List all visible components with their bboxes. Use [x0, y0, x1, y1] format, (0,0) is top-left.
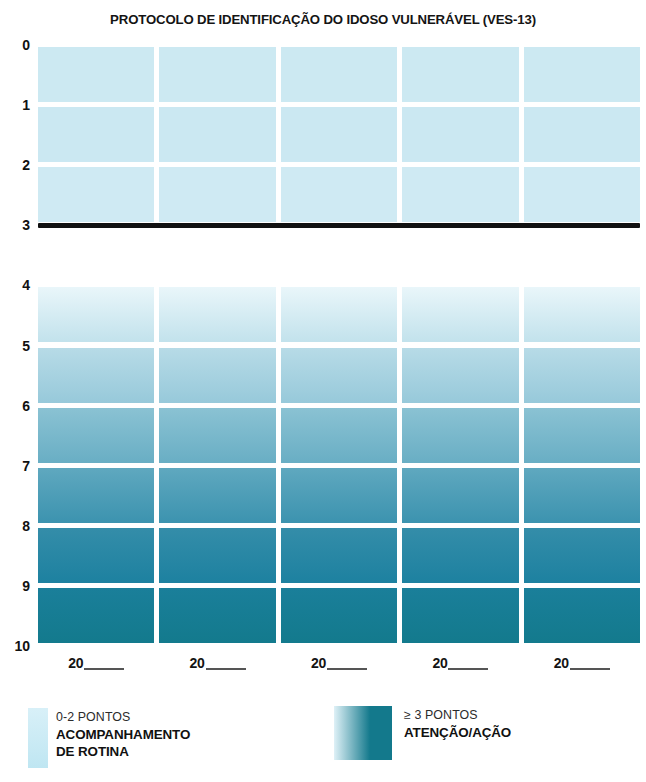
chart-cell-col3-score5[interactable]: [281, 348, 397, 403]
x-axis-tick-3[interactable]: 20: [281, 655, 397, 671]
legend-swatch-high: [334, 706, 392, 760]
chart-cell-col1-score1[interactable]: [38, 107, 154, 162]
legend-action-label-1: ACOMPANHAMENTO: [56, 727, 190, 742]
x-tick-year-prefix: 20: [311, 655, 326, 671]
x-tick-year-blank[interactable]: [448, 668, 488, 670]
chart-cell-col3-score6[interactable]: [281, 408, 397, 463]
x-axis-tick-5[interactable]: 20: [524, 655, 640, 671]
chart-column-3[interactable]: [281, 45, 397, 646]
x-axis-tick-4[interactable]: 20: [402, 655, 518, 671]
chart-cell-col5-score1[interactable]: [524, 107, 640, 162]
chart-cell-col5-score0[interactable]: [524, 47, 640, 102]
legend-action-label2-1: DE ROTINA: [56, 744, 190, 759]
chart-cell-col2-score4[interactable]: [159, 287, 275, 342]
chart-cell-col2-score8[interactable]: [159, 528, 275, 583]
x-tick-year-blank[interactable]: [327, 668, 367, 670]
y-axis-tick-10: 10: [0, 639, 30, 653]
chart-cell-col2-score0[interactable]: [159, 47, 275, 102]
chart-cell-col4-score6[interactable]: [402, 408, 518, 463]
chart-cell-col4-score9[interactable]: [402, 588, 518, 643]
chart-cell-col3-score8[interactable]: [281, 528, 397, 583]
x-tick-year-blank[interactable]: [570, 668, 610, 670]
y-axis-tick-7: 7: [0, 459, 30, 473]
x-axis-tick-1[interactable]: 20: [38, 655, 154, 671]
chart-plot-area: [38, 45, 640, 646]
x-tick-year-prefix: 20: [190, 655, 205, 671]
y-axis-tick-3: 3: [0, 218, 30, 232]
chart-cell-col2-score9[interactable]: [159, 588, 275, 643]
x-tick-year-prefix: 20: [432, 655, 447, 671]
chart-cell-col2-score5[interactable]: [159, 348, 275, 403]
ves13-chart-page: PROTOCOLO DE IDENTIFICAÇÃO DO IDOSO VULN…: [0, 0, 646, 782]
x-axis-tick-2[interactable]: 20: [159, 655, 275, 671]
chart-cell-col1-score5[interactable]: [38, 348, 154, 403]
y-axis-tick-8: 8: [0, 519, 30, 533]
chart-cell-col1-score4[interactable]: [38, 287, 154, 342]
chart-cell-col4-score0[interactable]: [402, 47, 518, 102]
chart-cell-col4-score8[interactable]: [402, 528, 518, 583]
chart-cell-col1-score6[interactable]: [38, 408, 154, 463]
y-axis-tick-5: 5: [0, 339, 30, 353]
chart-cell-col4-score5[interactable]: [402, 348, 518, 403]
chart-cell-col3-score9[interactable]: [281, 588, 397, 643]
y-axis-tick-1: 1: [0, 98, 30, 112]
chart-cell-col5-score2[interactable]: [524, 167, 640, 222]
chart-cell-col5-score8[interactable]: [524, 528, 640, 583]
chart-column-4[interactable]: [402, 45, 518, 646]
chart-cell-col4-score1[interactable]: [402, 107, 518, 162]
chart-cell-col2-score7[interactable]: [159, 468, 275, 523]
y-axis-tick-9: 9: [0, 579, 30, 593]
chart-cell-col5-score6[interactable]: [524, 408, 640, 463]
chart-column-1[interactable]: [38, 45, 154, 646]
chart-cell-col5-score4[interactable]: [524, 287, 640, 342]
chart-cell-col1-score0[interactable]: [38, 47, 154, 102]
chart-cell-col1-score2[interactable]: [38, 167, 154, 222]
chart-cell-col4-score4[interactable]: [402, 287, 518, 342]
chart-cell-col5-score7[interactable]: [524, 468, 640, 523]
chart-cell-col1-score9[interactable]: [38, 588, 154, 643]
chart-cell-col5-score5[interactable]: [524, 348, 640, 403]
chart-column-5[interactable]: [524, 45, 640, 646]
chart-cell-col5-score9[interactable]: [524, 588, 640, 643]
y-axis-tick-2: 2: [0, 158, 30, 172]
legend-text-2: ≥ 3 PONTOSATENÇÃO/AÇÃO: [404, 708, 511, 740]
legend-swatch-low: [28, 708, 48, 768]
chart-cell-col3-score1[interactable]: [281, 107, 397, 162]
chart-cell-col3-score0[interactable]: [281, 47, 397, 102]
chart-cell-col3-score7[interactable]: [281, 468, 397, 523]
chart-cell-col3-score2[interactable]: [281, 167, 397, 222]
legend-text-1: 0-2 PONTOSACOMPANHAMENTODE ROTINA: [56, 710, 190, 759]
legend-action-label-2: ATENÇÃO/AÇÃO: [404, 725, 511, 740]
chart-cell-col4-score2[interactable]: [402, 167, 518, 222]
x-tick-year-blank[interactable]: [84, 668, 124, 670]
y-axis-tick-4: 4: [0, 278, 30, 292]
chart-cell-col4-score7[interactable]: [402, 468, 518, 523]
y-axis-tick-6: 6: [0, 399, 30, 413]
chart-cell-col2-score2[interactable]: [159, 167, 275, 222]
chart-cell-col2-score6[interactable]: [159, 408, 275, 463]
chart-cell-col1-score8[interactable]: [38, 528, 154, 583]
x-tick-year-prefix: 20: [68, 655, 83, 671]
threshold-line-at-3: [38, 223, 640, 228]
x-tick-year-blank[interactable]: [206, 668, 246, 670]
chart-cell-col2-score1[interactable]: [159, 107, 275, 162]
legend-points-label-1: 0-2 PONTOS: [56, 710, 190, 724]
y-axis-tick-0: 0: [0, 38, 30, 52]
legend-points-label-2: ≥ 3 PONTOS: [404, 708, 511, 722]
chart-cell-col1-score7[interactable]: [38, 468, 154, 523]
x-tick-year-prefix: 20: [554, 655, 569, 671]
chart-column-2[interactable]: [159, 45, 275, 646]
page-title: PROTOCOLO DE IDENTIFICAÇÃO DO IDOSO VULN…: [0, 12, 646, 27]
chart-cell-col3-score4[interactable]: [281, 287, 397, 342]
